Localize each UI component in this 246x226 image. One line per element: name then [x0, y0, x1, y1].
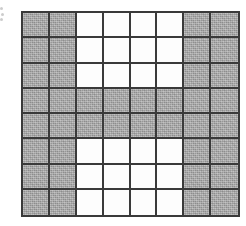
grid-cell-r6-c7: [184, 139, 211, 164]
grid-cell-r7-c6: [157, 165, 184, 190]
grid-cell-r4-c7: [184, 89, 211, 114]
grid-cell-r8-c1: [23, 190, 50, 215]
grid-cell-r8-c8: [211, 190, 238, 215]
grid-cell-r7-c2: [50, 165, 77, 190]
label-dot: [0, 7, 3, 10]
grid-cell-r3-c7: [184, 64, 211, 89]
grid-cell-r7-c1: [23, 165, 50, 190]
grid-cell-r4-c8: [211, 89, 238, 114]
grid-cell-r1-c7: [184, 13, 211, 38]
grid-cell-r4-c1: [23, 89, 50, 114]
grid-cell-r4-c3: [77, 89, 104, 114]
grid-cell-r5-c2: [50, 114, 77, 139]
grid-cell-r3-c2: [50, 64, 77, 89]
cropped-label-dots-icon: [0, 7, 4, 23]
grid-cell-r3-c3: [77, 64, 104, 89]
grid-cell-r4-c6: [157, 89, 184, 114]
grid-cell-r7-c8: [211, 165, 238, 190]
label-dot: [1, 13, 4, 16]
grid-cell-r5-c7: [184, 114, 211, 139]
grid-cell-r2-c4: [104, 38, 131, 63]
shaded-grid: [21, 11, 240, 217]
grid-cell-r2-c1: [23, 38, 50, 63]
grid-cell-r7-c7: [184, 165, 211, 190]
grid-cell-r8-c2: [50, 190, 77, 215]
grid-cell-r8-c7: [184, 190, 211, 215]
grid-cell-r3-c8: [211, 64, 238, 89]
grid-cell-r5-c5: [131, 114, 158, 139]
grid-cell-r6-c5: [131, 139, 158, 164]
grid-cell-r1-c2: [50, 13, 77, 38]
grid-cell-r4-c4: [104, 89, 131, 114]
grid-cell-r4-c2: [50, 89, 77, 114]
grid-cell-r2-c2: [50, 38, 77, 63]
grid-cell-r7-c5: [131, 165, 158, 190]
grid-cell-r6-c1: [23, 139, 50, 164]
grid-cell-r5-c8: [211, 114, 238, 139]
grid-cell-r1-c4: [104, 13, 131, 38]
grid-cell-r6-c3: [77, 139, 104, 164]
grid-cell-r5-c6: [157, 114, 184, 139]
grid-cell-r3-c6: [157, 64, 184, 89]
grid-cell-r3-c5: [131, 64, 158, 89]
grid-cell-r7-c4: [104, 165, 131, 190]
grid-cell-r8-c6: [157, 190, 184, 215]
grid-cell-r4-c5: [131, 89, 158, 114]
label-dot: [0, 18, 3, 21]
grid-cell-r1-c3: [77, 13, 104, 38]
figure-root: [0, 0, 246, 226]
grid-cell-r2-c7: [184, 38, 211, 63]
grid-cell-r2-c8: [211, 38, 238, 63]
grid-cell-r2-c3: [77, 38, 104, 63]
grid-cell-r6-c4: [104, 139, 131, 164]
grid-cell-r8-c4: [104, 190, 131, 215]
grid-cell-r6-c8: [211, 139, 238, 164]
grid-cell-r3-c1: [23, 64, 50, 89]
grid-cell-r2-c5: [131, 38, 158, 63]
grid-cell-r8-c5: [131, 190, 158, 215]
grid-cell-r6-c6: [157, 139, 184, 164]
grid-cell-r1-c6: [157, 13, 184, 38]
shaded-grid-container: [21, 11, 240, 217]
grid-cell-r1-c5: [131, 13, 158, 38]
grid-cell-r1-c1: [23, 13, 50, 38]
grid-cell-r7-c3: [77, 165, 104, 190]
grid-cell-r2-c6: [157, 38, 184, 63]
grid-cell-r5-c3: [77, 114, 104, 139]
grid-cell-r5-c4: [104, 114, 131, 139]
grid-cell-r8-c3: [77, 190, 104, 215]
grid-cell-r1-c8: [211, 13, 238, 38]
grid-cell-r6-c2: [50, 139, 77, 164]
grid-cell-r5-c1: [23, 114, 50, 139]
grid-cell-r3-c4: [104, 64, 131, 89]
